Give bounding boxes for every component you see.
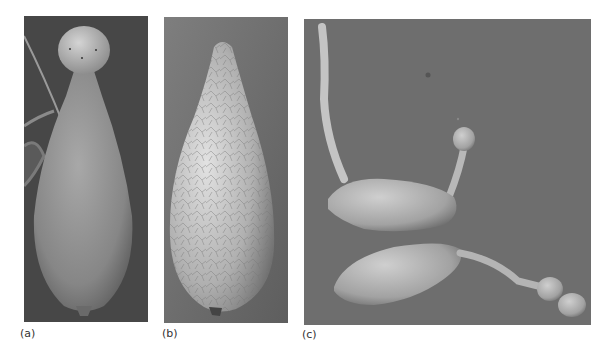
micrograph-panel-b bbox=[164, 17, 288, 323]
micrograph-panel-a bbox=[24, 16, 148, 322]
panel-label-c: (c) bbox=[302, 328, 317, 341]
panel-label-b: (b) bbox=[162, 327, 178, 340]
spore-illustration-b bbox=[164, 17, 288, 323]
micrograph-panel-c bbox=[304, 19, 591, 325]
spore-illustration-c bbox=[304, 19, 591, 325]
panel-label-a: (a) bbox=[20, 327, 35, 340]
spore-illustration-a bbox=[24, 16, 148, 322]
